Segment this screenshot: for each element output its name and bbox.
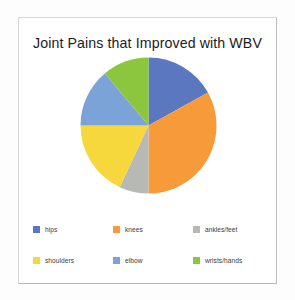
legend-swatch-icon — [193, 226, 200, 233]
legend-swatch-icon — [33, 257, 40, 264]
legend-swatch-icon — [193, 257, 200, 264]
chart-legend: hipskneesankles/feetshoulderselbowwrists… — [33, 214, 264, 276]
legend-item-label: hips — [45, 226, 57, 233]
legend-swatch-icon — [113, 226, 120, 233]
legend-item-elbow: elbow — [113, 253, 193, 269]
legend-item-label: elbow — [125, 257, 142, 264]
legend-item-label: knees — [125, 226, 143, 233]
legend-swatch-icon — [113, 257, 120, 264]
legend-item-ankles-feet: ankles/feet — [193, 222, 283, 238]
page-title: Joint Pains that Improved with WBV — [19, 35, 276, 51]
legend-item-knees: knees — [113, 222, 193, 238]
pie-chart-svg — [80, 57, 217, 194]
legend-item-label: ankles/feet — [205, 226, 237, 233]
legend-item-wrists-hands: wrists/hands — [193, 253, 283, 269]
legend-item-label: shoulders — [45, 257, 74, 264]
pie-chart — [80, 57, 217, 194]
legend-item-label: wrists/hands — [205, 257, 242, 264]
legend-item-shoulders: shoulders — [33, 253, 113, 269]
legend-item-hips: hips — [33, 222, 113, 238]
legend-swatch-icon — [33, 226, 40, 233]
chart-card: Joint Pains that Improved with WBV hipsk… — [18, 17, 277, 284]
